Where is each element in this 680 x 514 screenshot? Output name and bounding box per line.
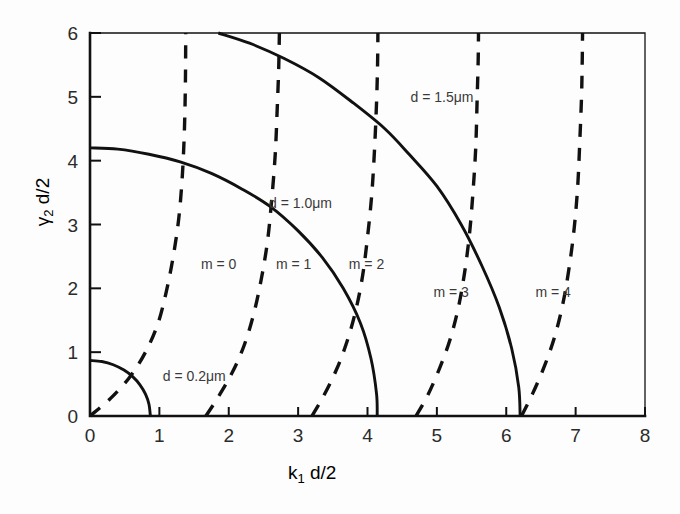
y-tick-label-6: 6 — [67, 23, 78, 44]
x-axis-label-subscript: 1 — [298, 471, 305, 486]
curve-label-m-0: m = 0 — [201, 256, 237, 272]
x-tick-label-5: 5 — [432, 425, 443, 446]
y-tick-label-1: 1 — [67, 342, 78, 363]
y-tick-label-4: 4 — [67, 151, 78, 172]
curve-m-2 — [312, 33, 378, 416]
x-tick-label-8: 8 — [640, 425, 651, 446]
x-axis-label-rest: d/2 — [305, 462, 337, 483]
curve-m-0 — [90, 33, 186, 416]
y-tick-label-2: 2 — [67, 278, 78, 299]
x-tick-label-4: 4 — [362, 425, 373, 446]
x-tick-label-6: 6 — [501, 425, 512, 446]
curve-label-d-0-2-m: d = 0.2μm — [163, 368, 226, 384]
curve-m-1 — [206, 33, 280, 416]
x-tick-label-2: 2 — [223, 425, 234, 446]
x-axis-label: k1 d/2 — [288, 462, 336, 486]
x-tick-label-0: 0 — [85, 425, 96, 446]
y-tick-label-3: 3 — [67, 215, 78, 236]
figure-container: 0123456780123456d = 0.2μmd = 1.0μmd = 1.… — [0, 0, 680, 514]
curve-label-m-1: m = 1 — [276, 256, 312, 272]
x-tick-label-1: 1 — [154, 425, 165, 446]
curve-label-d-1-0-m: d = 1.0μm — [269, 195, 332, 211]
x-tick-label-3: 3 — [293, 425, 304, 446]
y-tick-label-5: 5 — [67, 87, 78, 108]
y-tick-label-0: 0 — [67, 406, 78, 427]
x-tick-label-7: 7 — [570, 425, 581, 446]
curve-label-m-2: m = 2 — [349, 256, 385, 272]
y-axis-label: γ2 d/2 — [32, 152, 56, 252]
curve-label-m-3: m = 3 — [433, 284, 469, 300]
y-axis-label-rest: d/2 — [32, 178, 53, 210]
y-axis-label-subscript: 2 — [41, 209, 56, 216]
chart-canvas: 0123456780123456d = 0.2μmd = 1.0μmd = 1.… — [0, 0, 680, 514]
curve-m-4 — [522, 33, 583, 416]
x-axis-label-main: k — [288, 462, 298, 483]
curve-label-m-4: m = 4 — [535, 284, 571, 300]
y-axis-label-main: γ — [32, 217, 53, 227]
curve-label-d-1-5-m: d = 1.5μm — [411, 89, 474, 105]
